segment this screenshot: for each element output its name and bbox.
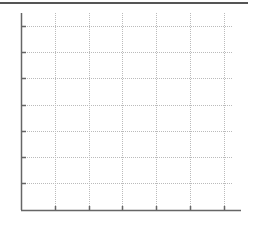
empty-chart — [0, 0, 257, 227]
